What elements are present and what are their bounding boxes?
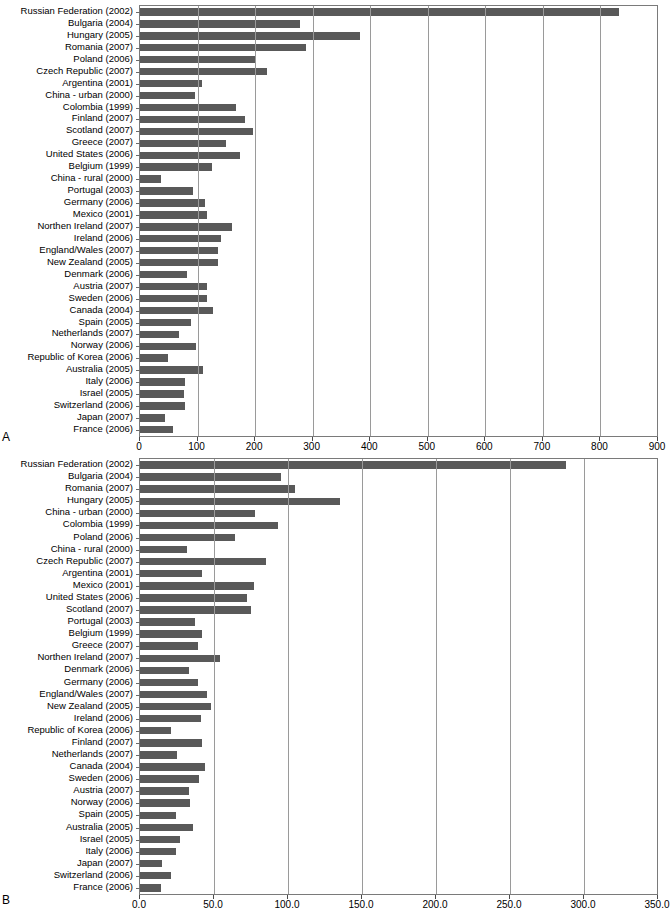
bar-row: [140, 882, 657, 894]
category-label: Colombia (1999): [0, 102, 136, 112]
bar-row: [140, 412, 657, 424]
bar: [140, 461, 566, 468]
bar-row: [140, 725, 657, 737]
bar-row: [140, 664, 657, 676]
chart-panel-b: Russian Federation (2002)Bulgaria (2004)…: [0, 455, 659, 914]
y-tick: [136, 888, 140, 889]
y-tick: [136, 550, 140, 551]
y-tick: [136, 513, 140, 514]
category-label: Ireland (2006): [0, 233, 136, 243]
category-label: Norway (2006): [0, 797, 136, 807]
gridline: [584, 459, 585, 894]
category-label: Netherlands (2007): [0, 749, 136, 759]
y-tick: [136, 477, 140, 478]
bar: [140, 522, 278, 529]
bar-row: [140, 113, 657, 125]
bar: [140, 848, 176, 855]
bar: [140, 860, 162, 867]
y-tick: [136, 60, 140, 61]
y-tick: [136, 263, 140, 264]
y-tick: [136, 24, 140, 25]
y-tick: [136, 167, 140, 168]
category-label: United States (2006): [0, 592, 136, 602]
bar-row: [140, 870, 657, 882]
y-tick: [136, 683, 140, 684]
bar-row: [140, 592, 657, 604]
category-label: Canada (2004): [0, 305, 136, 315]
y-tick: [136, 695, 140, 696]
bar-row: [140, 352, 657, 364]
bar: [140, 558, 266, 565]
bar: [140, 104, 236, 111]
y-tick: [136, 36, 140, 37]
category-label: Argentina (2001): [0, 78, 136, 88]
category-label: New Zealand (2005): [0, 257, 136, 267]
bar-row: [140, 388, 657, 400]
y-tick: [136, 525, 140, 526]
y-tick: [136, 143, 140, 144]
gridline: [288, 459, 289, 894]
y-tick: [136, 239, 140, 240]
bar: [140, 402, 185, 409]
bar-row: [140, 173, 657, 185]
bar-row: [140, 54, 657, 66]
category-label: Switzerland (2006): [0, 400, 136, 410]
category-label: Poland (2006): [0, 54, 136, 64]
bar: [140, 485, 295, 492]
bar-row: [140, 531, 657, 543]
category-label: Colombia (1999): [0, 519, 136, 529]
bar: [140, 426, 173, 433]
bar-row: [140, 495, 657, 507]
y-tick: [136, 767, 140, 768]
category-label: Canada (2004): [0, 761, 136, 771]
category-label: Israel (2005): [0, 388, 136, 398]
bar: [140, 307, 213, 314]
bar: [140, 799, 190, 806]
bar-row: [140, 102, 657, 114]
y-tick: [136, 791, 140, 792]
x-tick-label: 800: [591, 441, 608, 452]
bar: [140, 20, 300, 27]
category-label: Israel (2005): [0, 834, 136, 844]
gridline: [313, 6, 314, 436]
gridline: [543, 6, 544, 436]
bar-row: [140, 701, 657, 713]
bar: [140, 223, 232, 230]
bar-row: [140, 149, 657, 161]
x-tick-label: 200.0: [422, 899, 447, 910]
y-tick: [136, 215, 140, 216]
y-tick: [136, 610, 140, 611]
bar: [140, 378, 185, 385]
category-label: Northen Ireland (2007): [0, 221, 136, 231]
bar-row: [140, 507, 657, 519]
category-label: Mexico (2001): [0, 580, 136, 590]
x-tick-label: 300.0: [570, 899, 595, 910]
y-tick: [136, 876, 140, 877]
bar: [140, 642, 198, 649]
y-tick: [136, 707, 140, 708]
category-label: Northen Ireland (2007): [0, 652, 136, 662]
category-label: Romania (2007): [0, 42, 136, 52]
category-label: France (2006): [0, 424, 136, 434]
category-label: Greece (2007): [0, 640, 136, 650]
category-label: Sweden (2006): [0, 293, 136, 303]
y-tick: [136, 275, 140, 276]
bar: [140, 618, 195, 625]
y-tick: [136, 803, 140, 804]
bar-row: [140, 245, 657, 257]
bar-row: [140, 197, 657, 209]
y-tick: [136, 406, 140, 407]
category-label: Australia (2005): [0, 822, 136, 832]
bar: [140, 546, 187, 553]
y-tick: [136, 658, 140, 659]
y-tick: [136, 84, 140, 85]
category-label: England/Wales (2007): [0, 689, 136, 699]
category-label: United States (2006): [0, 149, 136, 159]
bar-row: [140, 185, 657, 197]
bar: [140, 751, 177, 758]
bar-row: [140, 281, 657, 293]
bar-row: [140, 340, 657, 352]
category-label: Bulgaria (2004): [0, 18, 136, 28]
x-tick-label: 0: [136, 441, 142, 452]
